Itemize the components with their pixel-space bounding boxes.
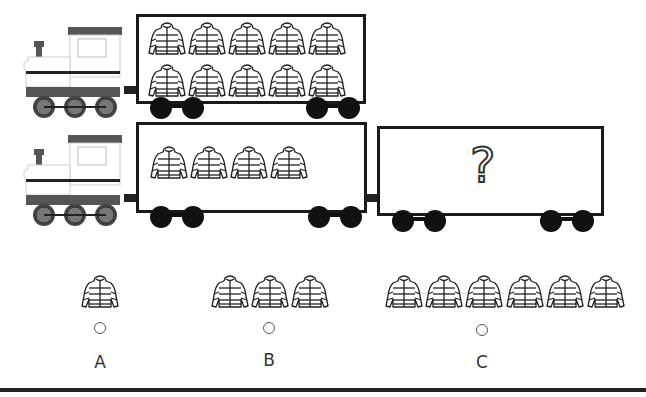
option-a-radio[interactable] (94, 322, 106, 334)
jacket-icon (189, 143, 229, 183)
locomotive-icon (22, 135, 126, 227)
wheel (572, 210, 594, 232)
option-c-radio[interactable] (476, 324, 488, 336)
jacket-icon (269, 143, 309, 183)
jacket-icon (267, 19, 307, 59)
jacket-icon (424, 272, 464, 312)
option-b-radio[interactable] (263, 322, 275, 334)
train-1-car (136, 14, 366, 104)
jacket-icon (149, 143, 189, 183)
jacket-icon (187, 19, 227, 59)
wheel (150, 97, 172, 119)
locomotive-icon (22, 27, 126, 119)
jacket-icon (187, 61, 227, 101)
coupler (124, 86, 136, 94)
jacket-icon (227, 61, 267, 101)
jacket-icon (464, 272, 504, 312)
jacket-icon (229, 143, 269, 183)
train-2-car-2-unknown: ? (377, 126, 604, 216)
jacket-icon (267, 61, 307, 101)
wheel (150, 206, 172, 228)
wheel (392, 210, 414, 232)
jacket-icon (505, 272, 545, 312)
wheel (540, 210, 562, 232)
wheel (424, 210, 446, 232)
question-mark-icon: ? (470, 137, 495, 193)
jacket-icon (250, 272, 290, 312)
divider-line (0, 388, 646, 392)
jacket-icon (307, 61, 347, 101)
wheel (338, 97, 360, 119)
train-2-car-1 (136, 122, 367, 213)
jacket-icon (227, 19, 267, 59)
jacket-icon (307, 19, 347, 59)
jacket-icon (210, 272, 250, 312)
jacket-icon (147, 19, 187, 59)
wheel (340, 206, 362, 228)
option-b-label: B (259, 350, 279, 370)
jacket-icon (586, 272, 626, 312)
jacket-icon (290, 272, 330, 312)
wheel (182, 206, 204, 228)
jacket-icon (147, 61, 187, 101)
wheel (306, 97, 328, 119)
option-c-label: C (472, 352, 492, 372)
jacket-icon (80, 272, 120, 312)
option-a-label: A (90, 352, 110, 372)
jacket-icon (545, 272, 585, 312)
coupler (124, 194, 136, 202)
wheel (182, 97, 204, 119)
wheel (308, 206, 330, 228)
jacket-icon (384, 272, 424, 312)
